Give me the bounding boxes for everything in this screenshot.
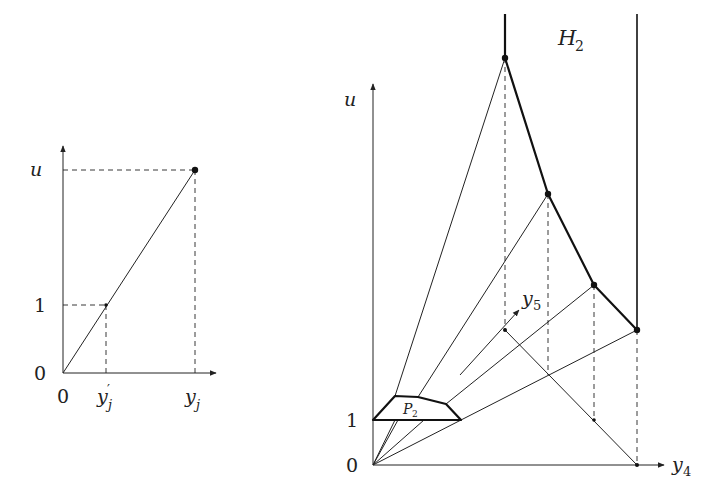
- left-label-zero-y: 0: [34, 362, 46, 384]
- h2-vertex-2: [545, 191, 551, 197]
- left-plot: u 1 0 0 y ′ j y j: [30, 146, 216, 412]
- left-label-yjprime: y ′ j: [96, 382, 112, 412]
- ray-3: [446, 285, 594, 404]
- diagram-canvas: u 1 0 0 y ′ j y j: [0, 0, 718, 488]
- svg-text:2: 2: [412, 409, 418, 419]
- diag-point-1: [503, 328, 507, 332]
- diag-point-2: [592, 418, 596, 422]
- svg-text:H: H: [557, 26, 577, 50]
- h2-vertex-1: [502, 55, 508, 61]
- right-label-zero: 0: [346, 454, 358, 476]
- svg-text:5: 5: [533, 298, 541, 313]
- right-plot: H 2 u 1 0 y 4 y 5 P 2: [344, 14, 691, 479]
- right-label-p2: P 2: [402, 401, 418, 419]
- projection-diagonal: [505, 330, 637, 465]
- svg-text:y: y: [521, 287, 533, 309]
- y5-axis: [460, 310, 519, 375]
- right-label-one: 1: [346, 409, 358, 431]
- right-label-y5: y 5: [521, 287, 541, 313]
- right-label-h2: H 2: [557, 26, 584, 54]
- left-ray: [63, 170, 195, 373]
- svg-text:′: ′: [107, 382, 110, 397]
- left-label-one: 1: [34, 294, 46, 316]
- diag-point-3: [635, 463, 639, 467]
- right-label-y4: y 4: [671, 453, 691, 479]
- left-point-yj: [192, 167, 198, 173]
- svg-text:2: 2: [575, 38, 584, 54]
- left-label-zero-x: 0: [57, 385, 69, 407]
- left-point-yjprime: [104, 303, 108, 307]
- ray-1: [395, 58, 505, 396]
- svg-text:4: 4: [683, 464, 691, 479]
- left-label-u: u: [30, 158, 42, 180]
- svg-text:y: y: [671, 453, 683, 475]
- h2-boundary: [505, 14, 637, 330]
- h2-vertex-3: [591, 282, 597, 288]
- svg-text:y: y: [184, 385, 196, 407]
- h2-vertex-4: [634, 327, 640, 333]
- right-label-u: u: [344, 88, 356, 110]
- left-label-yj: y j: [184, 385, 200, 412]
